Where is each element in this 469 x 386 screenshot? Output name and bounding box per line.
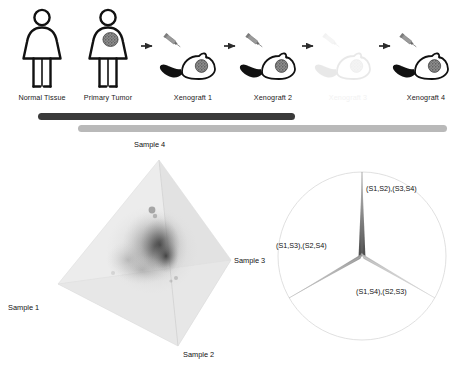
quartet-split-diagram: (S1,S2),(S3,S4) (S1,S3),(S2,S4) (S1,S4),…: [272, 158, 469, 358]
figure-root: Normal Tissue Primary Tumor Xenograft 1 …: [0, 0, 469, 386]
mouse-xenograft-4: [394, 53, 448, 79]
split-spoke-s1s3-s2s4: [289, 253, 363, 298]
syringe-icon-1: [163, 33, 181, 49]
split-label-s1s3-s2s4: (S1,S3),(S2,S4): [276, 241, 327, 250]
flow-stage-label-xenograft-2: Xenograft 2: [231, 93, 315, 102]
timeline-bar-dark: [38, 113, 295, 120]
tumor-mass-icon: [195, 60, 207, 73]
split-spoke-s1s2-s3s4: [359, 172, 366, 256]
mouse-xenograft-3: [316, 53, 370, 79]
tumor-mass-icon: [350, 60, 362, 73]
mouse-xenograft-2: [241, 53, 295, 79]
flow-stage-label-xenograft-1: Xenograft 1: [151, 93, 235, 102]
flow-stage-label-primary-tumor: Primary Tumor: [66, 93, 150, 102]
tet-vertex-label-sample-2: Sample 2: [183, 350, 214, 359]
tumor-mass-icon: [275, 60, 287, 73]
human-female-primary-tumor: [90, 10, 127, 87]
split-label-s1s4-s2s3: (S1,S4),(S2,S3): [356, 287, 407, 296]
tet-vertex-label-sample-3: Sample 3: [234, 256, 265, 265]
posterior-point-cloud: [106, 206, 198, 294]
human-female-normal-tissue: [24, 10, 61, 87]
tet-vertex-label-sample-1: Sample 1: [8, 303, 39, 312]
timeline-bar-light: [78, 125, 447, 132]
syringe-icon-2: [245, 33, 263, 49]
tumor-mass-icon: [428, 60, 440, 73]
syringe-icon-4: [399, 33, 417, 49]
mouse-xenograft-1: [161, 53, 215, 79]
split-label-s1s2-s3s4: (S1,S2),(S3,S4): [366, 184, 417, 193]
tumor-mass-icon: [103, 33, 118, 47]
flow-stage-label-xenograft-4: Xenograft 4: [384, 93, 468, 102]
flow-stage-label-xenograft-3: Xenograft 3: [306, 93, 390, 102]
sample-tetrahedron-scatter: Sample 4 Sample 3 Sample 1 Sample 2: [0, 138, 290, 386]
tet-vertex-label-sample-4: Sample 4: [134, 140, 165, 149]
xenograft-passage-flow: Normal Tissue Primary Tumor Xenograft 1 …: [0, 0, 469, 135]
syringe-icon-3: [322, 33, 340, 49]
